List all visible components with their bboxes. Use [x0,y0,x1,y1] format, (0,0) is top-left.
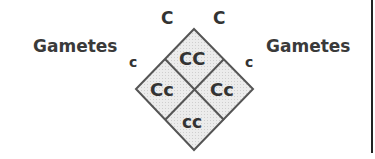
cell-left-genotype: Cc [150,81,174,99]
cell-top-genotype: CC [179,50,205,68]
cell-bottom-genotype: cc [182,114,202,131]
cell-right-genotype: Cc [210,81,234,99]
punnett-square-diamond [0,0,375,159]
right-border-line [371,0,373,153]
